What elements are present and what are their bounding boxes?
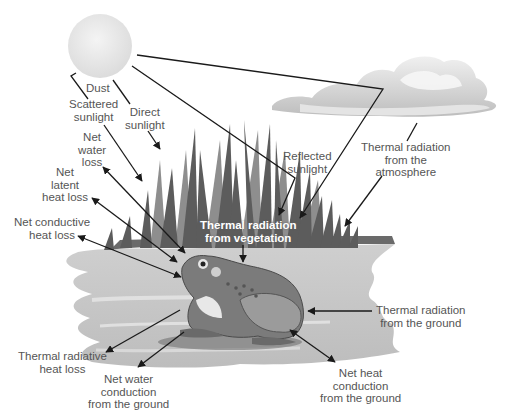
label-line: atmosphere	[361, 166, 450, 179]
cloud-icon	[272, 57, 496, 117]
label-net-heat-conduction-ground: Net heat conduction from the ground	[320, 367, 401, 405]
label-line: Scattered	[69, 98, 118, 111]
label-line: heat loss	[42, 191, 88, 204]
label-line: Direct	[125, 106, 165, 119]
label-line: Thermal radiation	[361, 141, 450, 154]
label-line: Thermal radiation	[376, 304, 465, 317]
label-line: conduction	[320, 380, 401, 393]
label-line: from the ground	[320, 392, 401, 405]
label-line: Thermal radiation	[200, 219, 297, 232]
label-line: from the ground	[88, 398, 169, 411]
label-line: sunlight	[283, 163, 332, 176]
label-net-latent-heat-loss: Net latent heat loss	[42, 166, 88, 204]
label-net-water-loss: Net water loss	[78, 131, 106, 169]
label-thermal-radiation-vegetation: Thermal radiation from vegetation	[200, 219, 297, 244]
label-net-water-conduction-ground: Net water conduction from the ground	[88, 373, 169, 411]
label-dust: Dust	[86, 82, 110, 95]
label-line: heat loss	[14, 229, 90, 242]
label-line: conduction	[88, 386, 169, 399]
label-dust-text: Dust	[86, 82, 110, 94]
label-line: from vegetation	[200, 232, 297, 245]
label-line: Reflected	[283, 150, 332, 163]
label-scattered-sunlight: Scattered sunlight	[69, 98, 118, 123]
label-line: sunlight	[125, 119, 165, 132]
heat-exchange-diagram: Dust Scattered sunlight Direct sunlight …	[0, 0, 507, 418]
label-thermal-radiation-atmosphere: Thermal radiation from the atmosphere	[361, 141, 450, 179]
label-thermal-radiation-ground: Thermal radiation from the ground	[376, 304, 465, 329]
label-line: Net water	[88, 373, 169, 386]
label-line: Thermal radiative	[18, 350, 107, 363]
label-line: latent	[42, 179, 88, 192]
label-line: sunlight	[69, 111, 118, 124]
label-line: Net heat	[320, 367, 401, 380]
label-line: from the ground	[376, 317, 465, 330]
label-line: from the	[361, 154, 450, 167]
label-line: Net	[78, 131, 106, 144]
label-direct-sunlight: Direct sunlight	[125, 106, 165, 131]
label-line: Net conductive	[14, 216, 90, 229]
sun-icon	[68, 14, 132, 78]
label-line: water	[78, 144, 106, 157]
label-net-conductive-heat-loss: Net conductive heat loss	[14, 216, 90, 241]
label-line: Net	[42, 166, 88, 179]
label-thermal-radiative-heat-loss: Thermal radiative heat loss	[18, 350, 107, 375]
label-reflected-sunlight: Reflected sunlight	[283, 150, 332, 175]
